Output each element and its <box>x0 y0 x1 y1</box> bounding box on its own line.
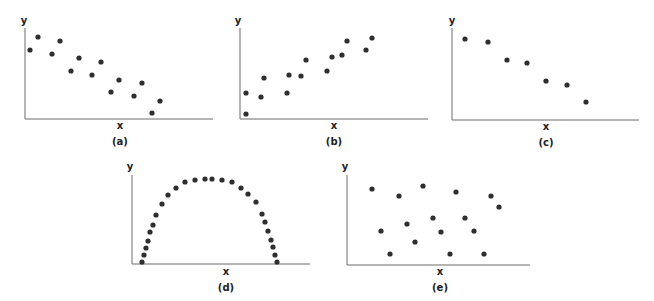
data-point <box>339 52 344 57</box>
data-point <box>89 72 94 77</box>
data-point <box>243 90 248 95</box>
scatter-panel-c: yx(c) <box>449 15 639 148</box>
scatter-panel-d: yx(d) <box>127 161 310 293</box>
data-point <box>209 176 214 181</box>
data-point <box>524 60 529 65</box>
data-point <box>68 68 73 73</box>
data-point <box>404 221 409 226</box>
y-axis-label: y <box>235 15 242 26</box>
data-point <box>270 244 275 249</box>
data-point <box>116 77 121 82</box>
data-point <box>98 59 103 64</box>
y-axis-label: y <box>342 161 349 172</box>
x-axis-label: x <box>543 121 550 132</box>
data-point <box>543 78 548 83</box>
scatter-panel-e: yx(e) <box>342 161 530 293</box>
data-point <box>76 55 81 60</box>
data-point <box>583 99 588 104</box>
data-point <box>159 201 164 206</box>
data-point <box>284 90 289 95</box>
data-point <box>192 177 197 182</box>
panel-label-e: (e) <box>432 282 448 293</box>
data-point <box>131 93 136 98</box>
data-point <box>149 110 154 115</box>
data-point <box>229 179 234 184</box>
axes-b <box>240 28 428 119</box>
data-point <box>49 51 54 56</box>
data-point <box>324 68 329 73</box>
data-point <box>462 36 467 41</box>
data-point <box>471 228 476 233</box>
y-axis-label: y <box>449 15 456 26</box>
data-point <box>447 251 452 256</box>
data-point <box>430 215 435 220</box>
data-point <box>261 75 266 80</box>
data-point <box>141 252 146 257</box>
x-axis-label: x <box>223 266 230 277</box>
data-point <box>369 35 374 40</box>
data-point <box>173 185 178 190</box>
data-point <box>504 57 509 62</box>
data-point <box>219 177 224 182</box>
data-point <box>303 57 308 62</box>
axes-a <box>25 28 213 119</box>
data-point <box>108 89 113 94</box>
data-point <box>253 199 258 204</box>
x-axis-label: x <box>437 266 444 277</box>
y-axis-label: y <box>21 15 28 26</box>
data-point <box>564 82 569 87</box>
data-point <box>262 219 267 224</box>
data-point <box>274 259 279 264</box>
data-point <box>245 191 250 196</box>
data-point <box>165 192 170 197</box>
data-point <box>139 80 144 85</box>
data-point <box>202 176 207 181</box>
data-point <box>396 193 401 198</box>
data-point <box>258 94 263 99</box>
data-point <box>329 54 334 59</box>
data-point <box>298 73 303 78</box>
data-point <box>157 98 162 103</box>
data-point <box>238 185 243 190</box>
data-point <box>265 228 270 233</box>
data-point <box>412 239 417 244</box>
data-point <box>27 47 32 52</box>
y-axis-label: y <box>127 161 134 172</box>
data-point <box>363 47 368 52</box>
data-point <box>259 211 264 216</box>
data-point <box>139 259 144 264</box>
data-point <box>182 179 187 184</box>
data-point <box>369 186 374 191</box>
data-point <box>488 193 493 198</box>
data-point <box>481 251 486 256</box>
panel-label-a: (a) <box>112 136 128 147</box>
panel-label-c: (c) <box>538 137 553 148</box>
data-point <box>145 238 150 243</box>
panel-label-b: (b) <box>326 136 342 147</box>
panel-label-d: (d) <box>218 282 234 293</box>
data-point <box>387 251 392 256</box>
data-point <box>438 229 443 234</box>
scatter-panel-a: yx(a) <box>21 15 213 147</box>
data-point <box>485 39 490 44</box>
data-point <box>344 38 349 43</box>
data-point <box>57 38 62 43</box>
x-axis-label: x <box>117 120 124 131</box>
data-point <box>272 252 277 257</box>
data-point <box>143 245 148 250</box>
x-axis-label: x <box>331 120 338 131</box>
axes-c <box>452 28 639 120</box>
data-point <box>462 215 467 220</box>
data-point <box>268 237 273 242</box>
data-point <box>35 34 40 39</box>
data-point <box>153 212 158 217</box>
data-point <box>243 111 248 116</box>
data-point <box>453 189 458 194</box>
data-point <box>378 228 383 233</box>
data-point <box>150 222 155 227</box>
data-point <box>147 229 152 234</box>
data-point <box>286 72 291 77</box>
axes-d <box>132 175 310 264</box>
scatter-plots-figure: yx(a)yx(b)yx(c)yx(d)yx(e) <box>0 0 654 301</box>
scatter-panel-b: yx(b) <box>235 15 428 147</box>
